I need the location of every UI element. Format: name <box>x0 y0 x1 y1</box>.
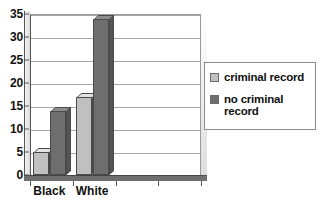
legend-label-no-criminal-record: no criminal record <box>224 93 315 118</box>
y-tick-mark <box>24 60 29 61</box>
bar-white-criminal-record <box>76 97 92 175</box>
y-tick-mark <box>24 106 29 107</box>
bar-black-no-criminal-record <box>50 111 66 175</box>
y-tick-mark <box>24 83 29 84</box>
x-tick-label-black: Black <box>33 184 65 198</box>
bar-side <box>66 106 71 175</box>
bar-chart: 05101520253035 BlackWhite criminal recor… <box>0 0 321 202</box>
bar-side <box>109 14 114 175</box>
bar-face <box>93 19 109 175</box>
y-axis: 05101520253035 <box>0 0 30 202</box>
y-tick-label: 35 <box>10 7 23 21</box>
x-tick-mark <box>158 181 159 186</box>
legend-swatch-criminal-record <box>210 73 219 82</box>
y-tick-mark <box>24 37 29 38</box>
x-tick-label-white: White <box>76 184 109 198</box>
bar-face <box>33 152 49 175</box>
bar-black-criminal-record <box>33 152 49 175</box>
y-tick-label: 30 <box>10 30 23 44</box>
y-tick-label: 10 <box>10 122 23 136</box>
y-tick-label: 20 <box>10 76 23 90</box>
y-tick-label: 0 <box>17 168 23 182</box>
legend-item-no-criminal-record[interactable]: no criminal record <box>210 93 315 118</box>
legend-item-criminal-record[interactable]: criminal record <box>210 71 315 84</box>
y-tick-mark <box>24 14 29 15</box>
chart-legend: criminal record no criminal record <box>204 62 316 130</box>
legend-label-criminal-record: criminal record <box>224 71 304 84</box>
y-tick-mark <box>24 129 29 130</box>
y-tick-label: 25 <box>10 53 23 67</box>
x-tick-mark <box>73 181 74 186</box>
bar-face <box>76 97 92 175</box>
x-tick-mark <box>201 181 202 186</box>
legend-swatch-no-criminal-record <box>210 95 219 104</box>
x-tick-mark <box>30 181 31 186</box>
y-tick-mark <box>24 152 29 153</box>
y-tick-label: 5 <box>17 145 23 159</box>
bar-white-no-criminal-record <box>93 19 109 175</box>
y-tick-mark <box>24 175 29 176</box>
y-tick-label: 15 <box>10 99 23 113</box>
bars-layer <box>30 14 201 175</box>
bar-face <box>50 111 66 175</box>
x-tick-mark <box>116 181 117 186</box>
